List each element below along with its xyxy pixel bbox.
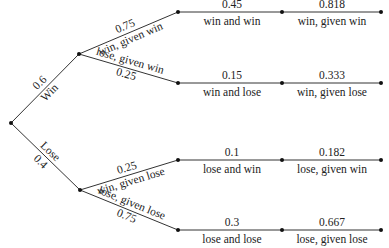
lose-node: [78, 188, 82, 192]
mid-node: [280, 158, 284, 162]
mid-node: [280, 81, 284, 85]
joint-prob: 0.3: [225, 216, 240, 228]
nodes: [9, 10, 383, 232]
mid-node: [280, 10, 284, 14]
leaf-node: [176, 81, 180, 85]
end-node: [379, 10, 383, 14]
probability-tree: 0.6 Win Lose 0.4 0.75 win, given win los…: [0, 0, 389, 248]
reverse-label: lose, given lose: [296, 233, 367, 246]
mid-node: [280, 228, 284, 232]
win-node: [77, 52, 81, 56]
reverse-label: win, given lose: [297, 86, 367, 99]
lose-given-win-prob: 0.25: [115, 65, 138, 82]
joint-prob: 0.15: [222, 69, 242, 81]
joint-label: win and win: [204, 15, 261, 27]
end-node: [379, 228, 383, 232]
reverse-label: win, given win: [298, 15, 367, 28]
reverse-prob: 0.182: [319, 146, 345, 158]
end-node: [379, 158, 383, 162]
joint-label: win and lose: [203, 86, 261, 98]
reverse-prob: 0.818: [319, 0, 345, 10]
root-node: [9, 121, 13, 125]
reverse-label: lose, given win: [297, 163, 367, 176]
reverse-prob: 0.333: [319, 69, 345, 81]
leaf-node: [176, 228, 180, 232]
joint-prob: 0.1: [225, 146, 240, 158]
leaf-node: [176, 10, 180, 14]
reverse-prob: 0.667: [319, 216, 345, 228]
end-node: [379, 81, 383, 85]
joint-prob: 0.45: [222, 0, 242, 10]
joint-label: lose and win: [203, 163, 261, 175]
joint-label: lose and lose: [202, 233, 261, 245]
leaf-node: [176, 158, 180, 162]
